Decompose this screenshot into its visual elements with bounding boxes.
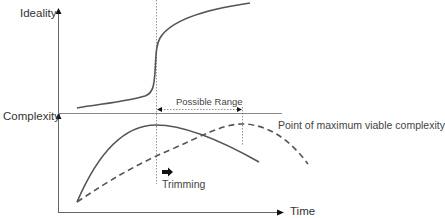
time-axis-arrow-icon — [277, 210, 284, 216]
complexity-curve-solid — [77, 125, 259, 202]
possible-range-left-arrow-icon — [157, 107, 162, 112]
max-viable-complexity-label: Point of maximum viable complexity — [278, 120, 445, 131]
complexity-axis-label: Complexity — [3, 111, 60, 123]
complexity-curve-dashed — [77, 124, 308, 202]
trimming-arrow-icon — [168, 168, 173, 177]
ideality-curve — [77, 3, 250, 108]
ideality-axis-label: Ideality — [20, 8, 56, 20]
trimming-arrow-shaft — [162, 170, 169, 174]
time-axis-label: Time — [290, 206, 315, 218]
possible-range-label: Possible Range — [176, 97, 243, 107]
trimming-label: Trimming — [162, 179, 205, 190]
possible-range-right-arrow-icon — [237, 107, 242, 112]
